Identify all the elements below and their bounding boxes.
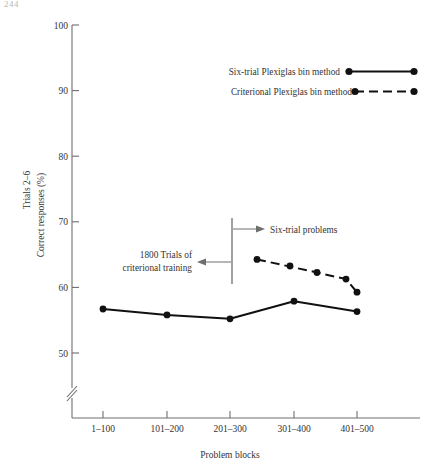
y-tick-label-50: 50 [59,349,69,359]
x-axis: 1–100 101–200 201–300 301–400 401–500 Pr… [72,411,420,460]
x-tick-label-2: 101–200 [150,424,184,434]
arrow-left-icon [197,259,206,266]
y-tick-label-100: 100 [54,21,69,31]
annotation-six-trial-problems: Six-trial problems [233,225,338,235]
x-tick-label-4: 301–400 [277,424,311,434]
legend-marker [351,88,358,95]
legend-item-criterional[interactable]: Criterional Plexiglas bin method [231,87,418,97]
data-point [287,263,294,270]
data-point [291,298,298,305]
annotation-criterional-training-line1: 1800 Trials of [140,250,193,260]
legend-marker [345,68,352,75]
x-tick-label-5: 401–500 [340,424,374,434]
annotation-criterional-training-line2: criterional training [123,263,193,273]
annotation-criterional-training: 1800 Trials of criterional training [123,250,231,273]
y-tick-label-70: 70 [59,217,69,227]
series-criterional-line [257,259,357,292]
legend-item-six-trial[interactable]: Six-trial Plexiglas bin method [229,67,418,77]
x-tick-label-3: 201–300 [213,424,247,434]
page-number: 244 [4,0,19,9]
legend-marker [410,68,417,75]
x-axis-title: Problem blocks [200,450,260,460]
series-criterional [254,256,361,296]
data-point [254,256,261,263]
y-tick-label-90: 90 [59,86,69,96]
y-axis-title-outer: Trials 2–6 [22,171,32,210]
data-point [227,315,234,322]
legend-marker [410,88,417,95]
y-tick-label-80: 80 [59,152,69,162]
chart-svg: 100 90 80 70 60 50 Correct responses (%)… [0,0,441,470]
legend-label-six-trial: Six-trial Plexiglas bin method [229,67,341,77]
annotation-six-trial-problems-label: Six-trial problems [270,225,338,235]
data-point [100,306,107,313]
x-tick-label-1: 1–100 [91,424,115,434]
data-point [354,308,361,315]
data-point [314,269,321,276]
y-axis-title-inner: Correct responses (%) [36,173,47,257]
data-point [354,289,361,296]
data-point [164,312,171,319]
figure-container: 244 100 90 80 70 60 50 Correct responses… [0,0,441,470]
arrow-right-icon [256,226,265,233]
y-tick-label-60: 60 [59,283,69,293]
legend: Six-trial Plexiglas bin method Criterion… [229,67,418,97]
legend-label-criterional: Criterional Plexiglas bin method [231,87,352,97]
y-axis: 100 90 80 70 60 50 Correct responses (%)… [22,21,79,419]
series-six-trial [100,298,361,322]
data-point [343,276,350,283]
